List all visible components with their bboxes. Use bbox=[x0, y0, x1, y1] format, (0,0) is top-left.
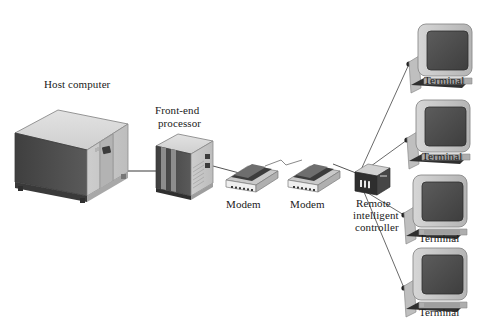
label-modem-1: Modem bbox=[226, 198, 261, 211]
node-front-end-processor[interactable] bbox=[156, 134, 213, 200]
node-remote-intelligent-controller[interactable] bbox=[355, 164, 390, 195]
node-host-computer[interactable] bbox=[15, 110, 128, 203]
label-front-end-processor-line1: Front-end bbox=[155, 104, 199, 117]
label-modem-2: Modem bbox=[290, 198, 325, 211]
network-diagram-canvas: Host computer Front-end processor Modem … bbox=[0, 0, 485, 328]
link-modem1-to-modem2 bbox=[265, 160, 302, 166]
diagram-graphics bbox=[0, 0, 485, 328]
label-controller-line1: Remote bbox=[356, 197, 391, 210]
node-modem-1[interactable] bbox=[226, 164, 278, 192]
label-terminal-3: Terminal bbox=[419, 232, 459, 245]
label-controller-line3: controller bbox=[355, 221, 399, 234]
label-terminal-2: Terminal bbox=[422, 150, 462, 163]
node-modem-2[interactable] bbox=[288, 164, 340, 192]
label-host-computer: Host computer bbox=[44, 78, 110, 91]
label-terminal-4: Terminal bbox=[419, 306, 459, 319]
label-terminal-1: Terminal bbox=[424, 74, 464, 87]
label-controller-line2: intelligent bbox=[353, 209, 399, 222]
label-front-end-processor-line2: processor bbox=[158, 117, 201, 130]
